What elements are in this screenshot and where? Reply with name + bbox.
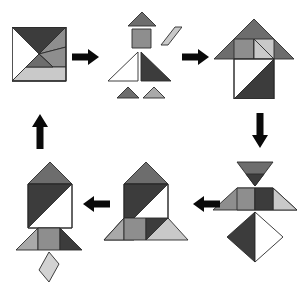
step-4-bowtie-diamond-figure[interactable] [210, 160, 300, 266]
bowtie-diamond-svg [210, 160, 300, 266]
step-2-exploded-pieces[interactable] [98, 8, 182, 110]
piece-square-dark-wing [255, 188, 273, 210]
exploded-pieces-svg [98, 8, 182, 110]
arrow-down-house-to-bowtie [252, 113, 268, 149]
assembled-square-svg [12, 27, 68, 86]
piece-square-gray-base [124, 218, 146, 240]
arrow-right-square-to-pieces [72, 49, 100, 65]
arrow-down-icon [252, 113, 268, 149]
piece-square-gray-wing [38, 228, 60, 250]
arrow-left-bowtie-to-rocket [192, 196, 220, 212]
arrow-right-icon [182, 49, 210, 65]
piece-small-triangle-dark-head [246, 174, 264, 186]
piece-parallelogram-flame [39, 252, 59, 282]
piece-large-triangle-dark [141, 52, 171, 81]
arrow-left-icon [192, 196, 220, 212]
piece-medium-triangle-nose [124, 162, 168, 184]
step-1-assembled-square[interactable] [12, 27, 68, 86]
piece-parallelogram-light [161, 27, 182, 45]
piece-triangle-left-fin [104, 218, 124, 240]
arrow-right-pieces-to-house [182, 49, 210, 65]
arrow-up-icon [32, 113, 48, 149]
piece-medium-triangle-top [128, 12, 156, 26]
step-6-rocket-with-flame[interactable] [12, 160, 94, 284]
arrow-up-flame-rocket-to-square [32, 113, 48, 149]
piece-triangle-dark-wing [60, 228, 82, 250]
arrow-house-svg [212, 17, 296, 99]
piece-square-gray [237, 188, 255, 210]
rocket-flared-svg [100, 160, 192, 246]
piece-square-gray [132, 29, 151, 48]
piece-triangle-left-wing [16, 228, 38, 250]
step-3-arrow-house-figure[interactable] [212, 17, 296, 99]
piece-small-triangle-light [143, 87, 165, 98]
piece-small-triangle-dark [117, 87, 139, 98]
arrow-right-icon [72, 49, 100, 65]
piece-medium-triangle-nose [28, 162, 72, 184]
piece-large-triangle-dark-body [227, 212, 255, 262]
piece-large-triangle-white [108, 52, 138, 81]
piece-large-triangle-white-body [255, 212, 283, 262]
step-5-rocket-flared-base[interactable] [100, 160, 192, 246]
rocket-flame-svg [12, 160, 94, 284]
tangram-diagram-canvas [0, 0, 301, 290]
piece-square-gray [234, 39, 254, 59]
piece-triangle-right-wing [273, 188, 297, 210]
